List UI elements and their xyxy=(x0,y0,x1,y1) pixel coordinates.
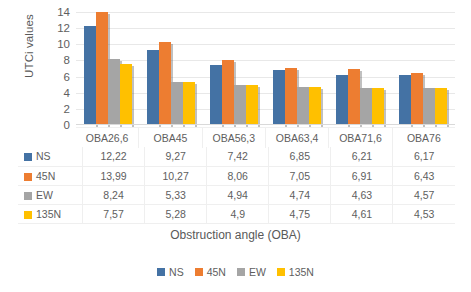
data-cell: 4,57 xyxy=(393,185,455,204)
data-cell: 5,28 xyxy=(145,204,207,223)
bar-groups xyxy=(76,12,455,125)
data-cell: 7,42 xyxy=(207,147,269,166)
legend-color-swatch-icon xyxy=(237,268,245,276)
series-name-label: EW xyxy=(36,189,53,201)
bar xyxy=(159,42,171,125)
bar-shadow xyxy=(384,90,386,127)
y-axis-tick-label: 8 xyxy=(64,54,70,66)
bar-shadow xyxy=(132,66,134,127)
y-axis-title: UTCi values xyxy=(23,1,35,91)
bar-fill xyxy=(183,82,195,125)
bar-fill xyxy=(360,88,372,125)
y-axis-tick-label: 10 xyxy=(57,38,70,50)
bar-fill xyxy=(435,88,447,125)
bar xyxy=(210,65,222,125)
data-cell: 4,74 xyxy=(269,185,331,204)
table-row: EW8,245,334,944,744,634,57 xyxy=(18,185,455,204)
bar xyxy=(147,50,159,125)
data-cell: 4,75 xyxy=(269,204,331,223)
series-color-swatch-icon xyxy=(24,173,32,181)
data-cell: 4,9 xyxy=(207,204,269,223)
y-axis-tick-label: 4 xyxy=(64,87,70,99)
bar xyxy=(84,26,96,125)
data-cell: 10,27 xyxy=(145,166,207,185)
data-cell: 6,43 xyxy=(393,166,455,185)
series-color-swatch-icon xyxy=(24,192,32,200)
y-axis-tick-label: 6 xyxy=(64,71,70,83)
category-label: OBA63,4 xyxy=(266,128,329,148)
series-name-cell: 45N xyxy=(18,166,83,185)
bar-fill xyxy=(108,59,120,126)
legend-label: EW xyxy=(249,266,266,278)
legend-item[interactable]: 135N xyxy=(277,266,314,278)
bar xyxy=(234,85,246,125)
category-label-row: OBA26,6OBA45OBA56,3OBA63,4OBA71,6OBA76 xyxy=(76,127,455,148)
bar-shadow xyxy=(321,89,323,127)
bar-fill xyxy=(297,87,309,125)
series-name-label: 135N xyxy=(36,208,61,220)
bar-fill xyxy=(234,85,246,125)
data-cell: 4,53 xyxy=(393,204,455,223)
data-cell: 8,06 xyxy=(207,166,269,185)
bar xyxy=(273,70,285,125)
legend-item[interactable]: NS xyxy=(157,266,184,278)
bar-fill xyxy=(285,68,297,125)
bar-fill xyxy=(171,82,183,125)
bar-fill xyxy=(147,50,159,125)
bar-group xyxy=(139,12,202,125)
x-axis-title: Obstruction angle (OBA) xyxy=(0,228,471,242)
series-color-swatch-icon xyxy=(24,153,32,161)
bar-fill xyxy=(399,75,411,125)
y-axis-tick-label: 14 xyxy=(57,6,70,18)
bar-fill xyxy=(423,88,435,125)
bar xyxy=(246,85,258,125)
table-row: 135N7,575,284,94,754,614,53 xyxy=(18,204,455,223)
bar xyxy=(399,75,411,125)
bar-fill xyxy=(336,75,348,125)
bar xyxy=(360,88,372,125)
y-axis-tick-labels: 14121086420 xyxy=(40,12,70,125)
data-cell: 13,99 xyxy=(83,166,145,185)
legend-color-swatch-icon xyxy=(157,268,165,276)
bar xyxy=(171,82,183,125)
x-axis-baseline xyxy=(76,124,455,125)
bar xyxy=(285,68,297,125)
bar-fill xyxy=(411,73,423,125)
data-cell: 7,05 xyxy=(269,166,331,185)
bar-fill xyxy=(348,69,360,125)
data-cell: 6,21 xyxy=(331,147,393,166)
series-name-cell: EW xyxy=(18,185,83,204)
series-color-swatch-icon xyxy=(24,211,32,219)
bar xyxy=(435,88,447,125)
data-cell: 9,27 xyxy=(145,147,207,166)
category-label: OBA71,6 xyxy=(329,128,392,148)
data-table: NS12,229,277,426,856,216,1745N13,9910,27… xyxy=(18,147,455,224)
series-name-label: NS xyxy=(36,150,51,162)
legend-item[interactable]: 45N xyxy=(195,266,226,278)
bar xyxy=(120,64,132,125)
bar xyxy=(108,59,120,126)
data-cell: 4,63 xyxy=(331,185,393,204)
legend-label: NS xyxy=(169,266,184,278)
legend-label: 45N xyxy=(207,266,226,278)
legend-color-swatch-icon xyxy=(195,268,203,276)
data-cell: 6,85 xyxy=(269,147,331,166)
bar-group xyxy=(392,12,455,125)
category-label: OBA76 xyxy=(393,128,455,148)
category-label: OBA45 xyxy=(139,128,202,148)
legend-item[interactable]: EW xyxy=(237,266,266,278)
data-cell: 5,33 xyxy=(145,185,207,204)
data-table-body: NS12,229,277,426,856,216,1745N13,9910,27… xyxy=(18,147,455,223)
data-cell: 12,22 xyxy=(83,147,145,166)
bar-shadow xyxy=(195,84,197,127)
category-label: OBA26,6 xyxy=(76,128,139,148)
series-name-label: 45N xyxy=(36,170,55,182)
data-cell: 4,94 xyxy=(207,185,269,204)
bar-fill xyxy=(210,65,222,125)
series-name-cell: 135N xyxy=(18,204,83,223)
data-cell: 8,24 xyxy=(83,185,145,204)
series-name-cell: NS xyxy=(18,147,83,166)
bar xyxy=(183,82,195,125)
bar-group xyxy=(266,12,329,125)
category-label: OBA56,3 xyxy=(203,128,266,148)
